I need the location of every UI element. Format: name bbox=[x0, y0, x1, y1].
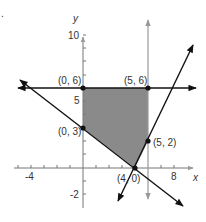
point-label-0-3: (0, 3) bbox=[58, 126, 81, 137]
point-5-6 bbox=[145, 85, 150, 90]
y-axis-label: y bbox=[72, 13, 79, 24]
point-0-6 bbox=[80, 85, 85, 90]
shaded-region bbox=[83, 88, 148, 168]
bullet-mark: . bbox=[1, 8, 4, 19]
point-label-0-6: (0, 6) bbox=[58, 75, 81, 86]
point-label-5-6: (5, 6) bbox=[124, 75, 147, 86]
feasible-region-graph: . y x 10 5 -2 -4 8 (0, 6) (5, 6) (0, 3) … bbox=[0, 0, 206, 222]
tick-label-neg4: -4 bbox=[25, 171, 34, 182]
tick-label-neg2: -2 bbox=[70, 189, 79, 200]
point-4-0 bbox=[132, 165, 137, 170]
x-axis-label: x bbox=[192, 172, 199, 183]
point-label-4-0: (4, 0) bbox=[117, 173, 140, 184]
tick-label-8: 8 bbox=[171, 171, 177, 182]
tick-label-5: 5 bbox=[74, 95, 80, 106]
point-5-2 bbox=[145, 138, 150, 143]
tick-label-10: 10 bbox=[68, 30, 80, 41]
point-label-5-2: (5, 2) bbox=[153, 137, 176, 148]
